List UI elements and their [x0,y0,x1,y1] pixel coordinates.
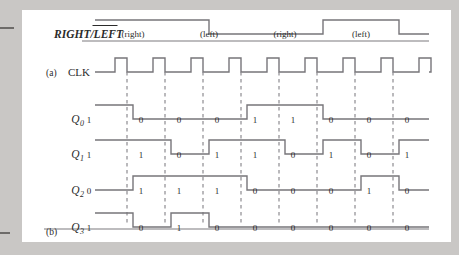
timing-diagram-svg: RIGHT/LEFT(right)(left)(right)(left)CLKQ… [22,10,451,242]
q3-bit-4: 0 [253,223,258,233]
part-label-b: (b) [46,227,57,238]
q1-bit-4: 1 [253,150,258,160]
q0-bit-3: 0 [215,115,220,125]
q2-bit-4: 0 [253,186,258,196]
q0-bit-7: 0 [367,115,372,125]
q1-bit-7: 0 [367,150,372,160]
q0-bit-6: 0 [329,115,334,125]
q3-bit-1: 0 [139,223,144,233]
q0-bit-0: 1 [87,115,92,125]
q1-label: Q1 [71,148,84,163]
clock-label: CLK [68,66,90,78]
q2-bit-2: 1 [177,186,182,196]
control-segment-label-3: (right) [274,29,297,39]
q1-bit-8: 1 [405,150,410,160]
q1-bit-5: 0 [291,150,296,160]
q2-bit-3: 1 [215,186,220,196]
q2-waveform [95,176,429,190]
control-segment-label-4: (left) [352,29,370,39]
q2-bit-8: 0 [405,186,410,196]
q3-label: Q3 [71,221,84,236]
q0-bit-8: 0 [405,115,410,125]
control-segment-label-2: (left) [200,29,218,39]
q0-bit-2: 0 [177,115,182,125]
control-segment-label-1: (right) [122,29,145,39]
q1-bit-0: 1 [87,150,92,160]
part-label-a: (a) [46,68,57,79]
q2-label: Q2 [71,184,84,199]
q0-bit-5: 1 [291,115,296,125]
clock-waveform [95,58,431,72]
q3-bit-0: 1 [87,223,92,233]
timing-diagram-panel: RIGHT/LEFT(right)(left)(right)(left)CLKQ… [22,10,451,242]
q3-bit-2: 1 [177,223,182,233]
control-signal-label: RIGHT/LEFT [53,28,124,40]
q2-bit-0: 0 [87,186,92,196]
q1-bit-2: 0 [177,150,182,160]
q1-waveform [95,140,429,154]
q3-waveform [95,213,429,227]
q2-bit-7: 1 [367,186,372,196]
q0-label: Q0 [71,113,84,128]
q3-bit-6: 0 [329,223,334,233]
q3-bit-7: 0 [367,223,372,233]
q2-bit-1: 1 [139,186,144,196]
q3-bit-3: 0 [215,223,220,233]
left-margin-rule-top [0,27,14,29]
q3-bit-8: 0 [405,223,410,233]
q2-bit-5: 0 [291,186,296,196]
control-signal-waveform [95,20,429,34]
q2-bit-6: 0 [329,186,334,196]
left-margin-rule-bottom [0,232,10,234]
q1-bit-1: 1 [139,150,144,160]
q0-bit-4: 1 [253,115,258,125]
q1-bit-6: 1 [329,150,334,160]
q0-waveform [95,105,429,119]
q3-bit-5: 0 [291,223,296,233]
q0-bit-1: 0 [139,115,144,125]
q1-bit-3: 1 [215,150,220,160]
